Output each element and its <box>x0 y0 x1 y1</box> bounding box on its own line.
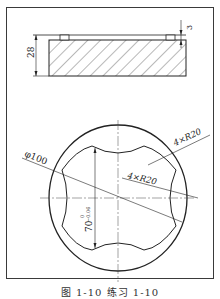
section-view <box>33 20 186 76</box>
figure-caption: 图 1-10 练习 1-10 <box>0 284 220 299</box>
inner-radius-label: 4×R20 <box>126 170 159 187</box>
groove-depth-label: 3 <box>185 25 194 30</box>
outer-radius-label: 4×R20 <box>171 126 204 148</box>
tolerance-lower: −0.06 <box>85 207 91 222</box>
height-label: 28 <box>26 46 36 58</box>
diameter-label: φ100 <box>23 149 49 167</box>
